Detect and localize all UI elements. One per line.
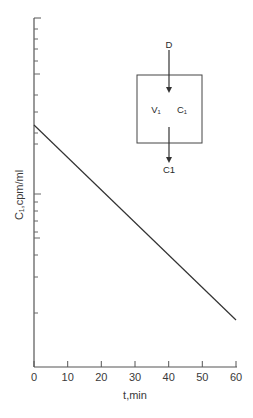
x-tick-10: 10 xyxy=(62,371,74,383)
x-tick-0: 0 xyxy=(31,371,37,383)
x-axis-label: t,min xyxy=(123,389,147,401)
x-tick-30: 30 xyxy=(129,371,141,383)
volume-label: V₁ xyxy=(151,104,161,115)
x-tick-60: 60 xyxy=(230,371,242,383)
x-tick-20: 20 xyxy=(95,371,107,383)
input-label: D xyxy=(166,39,173,50)
x-tick-labels: 0 10 20 30 40 50 60 xyxy=(31,371,242,383)
y-axis-ticks xyxy=(34,29,41,313)
output-label: C1 xyxy=(163,164,175,175)
chart-svg: 0 10 20 30 40 50 60 t,min C₁,cpm/ml D V₁… xyxy=(0,0,253,418)
concentration-label: C₁ xyxy=(177,104,187,115)
inset-diagram: D V₁ C₁ C1 xyxy=(137,39,202,175)
output-arrowhead xyxy=(166,157,172,163)
x-tick-40: 40 xyxy=(163,371,175,383)
x-tick-50: 50 xyxy=(196,371,208,383)
y-axis-label: C₁,cpm/ml xyxy=(13,170,25,220)
x-axis-ticks xyxy=(34,361,236,367)
data-line-c1 xyxy=(34,125,236,320)
input-arrowhead xyxy=(166,87,172,93)
